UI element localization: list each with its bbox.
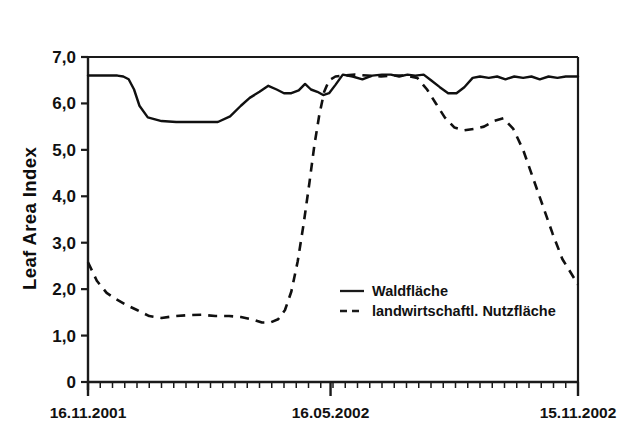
y-tick-label-0: 0 xyxy=(67,373,76,392)
legend-label-waldflaeche: Waldfläche xyxy=(372,283,448,299)
y-tick-label-1: 1,0 xyxy=(52,327,76,346)
legend-label-landwirtschaftl-nutzflaeche: landwirtschaftl. Nutzfläche xyxy=(372,303,556,319)
y-tick-label-7: 7,0 xyxy=(52,48,76,67)
y-tick-label-6: 6,0 xyxy=(52,94,76,113)
x-axis-ticks xyxy=(88,382,578,396)
y-tick-label-4: 4,0 xyxy=(52,187,76,206)
y-axis-ticks: 01,02,03,04,05,06,07,0 xyxy=(52,48,88,392)
series-line-landwirtschaftl-nutzflaeche xyxy=(88,75,578,323)
y-axis-title: Leaf Area Index xyxy=(19,147,40,290)
y-tick-label-3: 3,0 xyxy=(52,234,76,253)
figure-canvas: 01,02,03,04,05,06,07,0 16.11.200116.05.2… xyxy=(0,0,622,445)
x-tick-label-1: 16.05.2002 xyxy=(292,404,370,421)
x-tick-label-0: 16.11.2001 xyxy=(50,404,127,421)
series-line-waldflaeche xyxy=(88,75,578,122)
x-axis-labels: 16.11.200116.05.200215.11.2002 xyxy=(50,404,617,421)
y-tick-label-5: 5,0 xyxy=(52,141,76,160)
y-tick-label-2: 2,0 xyxy=(52,280,76,299)
line-chart: 01,02,03,04,05,06,07,0 16.11.200116.05.2… xyxy=(0,0,622,445)
plot-frame xyxy=(88,57,578,390)
chart-legend: Waldfläche landwirtschaftl. Nutzfläche xyxy=(340,283,556,319)
x-tick-label-2: 15.11.2002 xyxy=(540,404,617,421)
